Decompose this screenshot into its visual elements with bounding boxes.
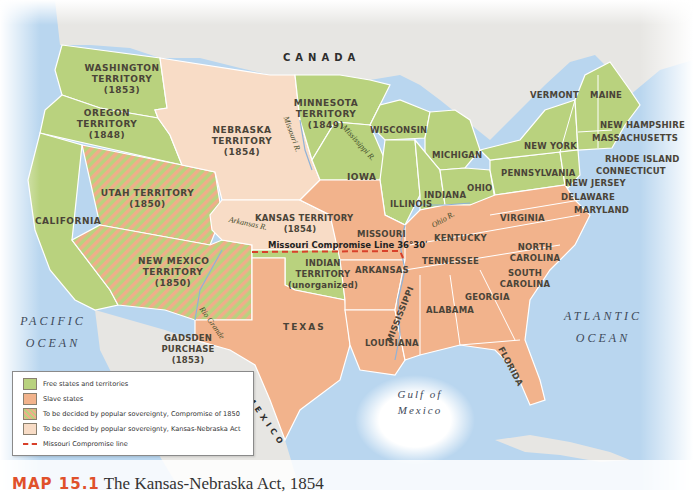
map-number: MAP 15.1 (12, 475, 100, 493)
label-line: SOUTH (495, 268, 555, 279)
legend-label: Free states and territories (43, 380, 128, 388)
label-line: PURCHASE (158, 344, 218, 355)
territory-label-nebraska: NEBRASKA TERRITORY (1854) (207, 125, 277, 158)
state-label-tennessee: TENNESSEE (422, 256, 479, 267)
legend-label: To be decided by popular sovereignty, Ka… (43, 425, 241, 433)
state-label-louisiana: LOUISIANA (365, 338, 419, 349)
label-line: CAROLINA (505, 253, 565, 264)
legend-swatch-dashed-line (23, 443, 37, 445)
state-label-alabama: ALABAMA (426, 305, 474, 316)
label-line: TERRITORY (72, 119, 142, 130)
legend-swatch-kansas-nebraska (23, 423, 37, 435)
state-label-missouri: MISSOURI (357, 229, 406, 240)
state-label-georgia: GEORGIA (465, 292, 510, 303)
label-line: TERRITORY (82, 74, 162, 85)
ocean-line: Mexico (385, 402, 455, 418)
label-line: KANSAS TERRITORY (255, 213, 345, 224)
label-line: TERRITORY (290, 109, 362, 120)
legend-label: Missouri Compromise line (43, 440, 128, 448)
state-label-maine: MAINE (590, 90, 622, 101)
ocean-line: Gulf of (385, 386, 455, 402)
territory-label-indian: INDIAN TERRITORY (unorganized) (288, 258, 358, 291)
label-line: TERRITORY (207, 136, 277, 147)
label-line: (1853) (158, 355, 218, 366)
state-label-maryland: MARYLAND (574, 205, 629, 216)
label-line: (1850) (138, 278, 208, 289)
territory-label-washington: WASHINGTON TERRITORY (1853) (82, 63, 162, 96)
label-line: TERRITORY (288, 269, 358, 280)
state-label-wisconsin: WISCONSIN (370, 125, 427, 136)
territory-label-utah: UTAH TERRITORY (1850) (100, 188, 195, 210)
legend-item-slave: Slave states (23, 393, 83, 405)
country-label-canada: CANADA (283, 52, 360, 63)
label-line: (unorganized) (288, 280, 358, 291)
state-label-delaware: DELAWARE (561, 192, 615, 203)
label-line: NEBRASKA (207, 125, 277, 136)
territory-label-minnesota: MINNESOTA TERRITORY (1849) (290, 98, 362, 131)
map-title: The Kansas-Nebraska Act, 1854 (104, 474, 324, 493)
territory-label-gadsden: GADSDEN PURCHASE (1853) (158, 333, 218, 366)
state-label-new-york: NEW YORK (524, 141, 577, 152)
state-label-arkansas: ARKANSAS (355, 265, 409, 276)
legend-item-kansas-nebraska: To be decided by popular sovereignty, Ka… (23, 423, 241, 435)
ocean-line: OCEAN (558, 327, 648, 349)
state-label-vermont: VERMONT (530, 90, 579, 101)
map-legend: Free states and territories Slave states… (12, 371, 254, 456)
ocean-line: OCEAN (18, 332, 88, 354)
state-label-connecticut: CONNECTICUT (596, 166, 666, 177)
label-line: TERRITORY (138, 267, 208, 278)
label-line: CAROLINA (495, 279, 555, 290)
legend-item-free: Free states and territories (23, 378, 128, 390)
state-label-texas: TEXAS (283, 322, 326, 333)
state-label-rhode-island: RHODE ISLAND (605, 154, 680, 165)
label-line: (1854) (255, 224, 345, 235)
legend-item-popular-1850: To be decided by popular sovereignty, Co… (23, 408, 240, 420)
state-label-new-hampshire: NEW HAMPSHIRE (600, 120, 685, 131)
label-line: (1848) (72, 130, 142, 141)
state-label-north-carolina: NORTH CAROLINA (505, 242, 565, 264)
state-label-new-jersey: NEW JERSEY (565, 178, 626, 189)
state-label-south-carolina: SOUTH CAROLINA (495, 268, 555, 290)
state-label-indiana: INDIANA (424, 190, 466, 201)
label-line: (1854) (207, 147, 277, 158)
state-label-virginia: VIRGINIA (500, 213, 545, 224)
legend-swatch-slave (23, 393, 37, 405)
label-line: (1853) (82, 85, 162, 96)
ocean-line: ATLANTIC (558, 305, 648, 327)
label-line: WASHINGTON (82, 63, 162, 74)
label-line: UTAH TERRITORY (100, 188, 195, 199)
territory-label-kansas: KANSAS TERRITORY (1854) (255, 213, 345, 235)
ocean-line: PACIFIC (18, 310, 88, 332)
ocean-label-gulf: Gulf of Mexico (385, 386, 455, 418)
label-line: INDIAN (288, 258, 358, 269)
label-line: NEW MEXICO (138, 256, 208, 267)
state-label-kentucky: KENTUCKY (434, 233, 487, 244)
state-label-massachusetts: MASSACHUSETTS (592, 133, 678, 144)
territory-label-oregon: OREGON TERRITORY (1848) (72, 108, 142, 141)
legend-label: To be decided by popular sovereignty, Co… (43, 410, 240, 418)
ocean-label-pacific: PACIFIC OCEAN (18, 310, 88, 354)
missouri-compromise-label: Missouri Compromise Line 36°30ʹ (268, 240, 428, 250)
legend-item-missouri-line: Missouri Compromise line (23, 438, 128, 450)
legend-label: Slave states (43, 395, 83, 403)
state-label-iowa: IOWA (347, 172, 377, 183)
state-label-ohio: OHIO (467, 183, 493, 194)
label-line: (1850) (100, 199, 195, 210)
legend-swatch-free (23, 378, 37, 390)
ocean-label-atlantic: ATLANTIC OCEAN (558, 305, 648, 349)
label-line: NORTH (505, 242, 565, 253)
state-label-california: CALIFORNIA (35, 216, 101, 227)
legend-swatch-striped (23, 408, 37, 420)
label-line: MINNESOTA (290, 98, 362, 109)
state-label-michigan: MICHIGAN (432, 150, 482, 161)
label-line: OREGON (72, 108, 142, 119)
territory-label-new-mexico: NEW MEXICO TERRITORY (1850) (138, 256, 208, 289)
map-caption: MAP 15.1 The Kansas-Nebraska Act, 1854 (12, 474, 324, 494)
label-line: GADSDEN (158, 333, 218, 344)
